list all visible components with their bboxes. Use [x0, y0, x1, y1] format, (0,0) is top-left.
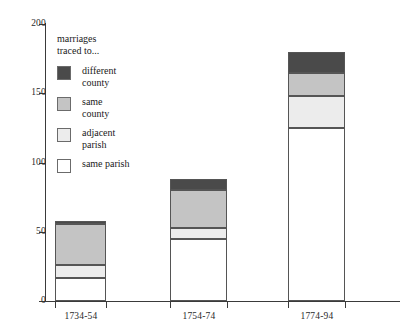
x-axis-line — [45, 301, 400, 302]
x-tick-mark — [170, 302, 171, 308]
y-tick-label: 50 — [12, 227, 46, 237]
bar-segment-same-county[interactable] — [55, 224, 106, 266]
x-tick-mark — [55, 302, 56, 308]
legend-label-same-parish: same parish — [82, 158, 130, 170]
bar-segment-same-parish[interactable] — [55, 278, 106, 302]
legend-label-different-county: different county — [82, 65, 116, 88]
y-tick-label: 150 — [12, 88, 46, 98]
legend-swatch-different-county-icon — [57, 66, 71, 80]
x-axis-label-1774-94: 1774-94 — [280, 311, 354, 321]
x-tick-mark — [288, 302, 289, 308]
legend-swatch-same-county-icon — [57, 97, 71, 111]
x-axis-label-1754-74: 1754-74 — [162, 311, 236, 321]
legend-item-same-county[interactable]: same county — [57, 96, 207, 120]
x-tick-mark — [227, 302, 228, 308]
y-tick-label: 100 — [12, 158, 46, 168]
legend-swatch-same-parish-icon — [57, 159, 71, 173]
x-axis-label-1734-54: 1734-54 — [45, 311, 117, 321]
legend-label-adjacent-parish: adjacent parish — [82, 127, 115, 150]
legend-item-same-parish[interactable]: same parish — [57, 158, 207, 182]
legend-title: marriages traced to... — [57, 33, 207, 57]
bar-1734-54[interactable] — [55, 221, 106, 301]
stacked-bar-chart: 200 150 100 50 0 1734-54 1754-74 1774-94 — [0, 0, 405, 328]
bar-segment-adjacent-parish[interactable] — [288, 96, 345, 128]
bar-1774-94[interactable] — [288, 52, 345, 301]
legend-item-adjacent-parish[interactable]: adjacent parish — [57, 127, 207, 151]
legend-label-same-county: same county — [82, 96, 109, 119]
bar-segment-same-county[interactable] — [288, 73, 345, 97]
bar-segment-same-county[interactable] — [170, 190, 227, 227]
bar-1754-74[interactable] — [170, 179, 227, 301]
bar-segment-adjacent-parish[interactable] — [170, 228, 227, 239]
bar-segment-same-parish[interactable] — [288, 128, 345, 301]
bar-segment-different-county[interactable] — [55, 221, 106, 224]
x-tick-mark — [106, 302, 107, 308]
y-tick-label: 0 — [12, 296, 46, 306]
legend-swatch-adjacent-parish-icon — [57, 128, 71, 142]
y-tick-label: 200 — [12, 19, 46, 29]
bar-segment-different-county[interactable] — [288, 52, 345, 73]
legend-item-different-county[interactable]: different county — [57, 65, 207, 89]
legend: marriages traced to... different county … — [57, 33, 207, 189]
bar-segment-same-parish[interactable] — [170, 239, 227, 301]
bar-segment-adjacent-parish[interactable] — [55, 265, 106, 278]
x-tick-mark — [345, 302, 346, 308]
